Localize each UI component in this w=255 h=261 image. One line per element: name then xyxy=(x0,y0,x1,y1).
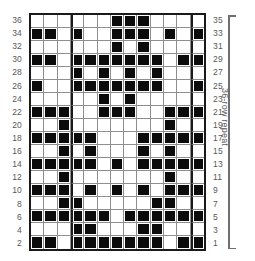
stitch-cell-empty xyxy=(111,132,124,145)
stitch-cell-filled xyxy=(71,28,84,41)
stitch-cell-empty xyxy=(111,145,124,158)
left-row-number: 12 xyxy=(12,171,26,184)
stitch-cell-filled xyxy=(151,223,164,236)
right-row-number: 7 xyxy=(208,198,218,211)
stitch-cell-empty xyxy=(31,145,44,158)
stitch-cell-filled xyxy=(124,93,137,106)
stitch-cell-filled xyxy=(98,80,111,93)
stitch-cell-filled xyxy=(58,106,71,119)
stitch-cell-filled xyxy=(71,223,84,236)
stitch-cell-empty xyxy=(71,171,84,184)
stitch-cell-filled xyxy=(44,106,57,119)
stitch-cell-filled xyxy=(124,210,137,223)
stitch-cell-empty xyxy=(111,93,124,106)
stitch-cell-filled xyxy=(137,41,150,54)
stitch-cell-empty xyxy=(58,236,71,249)
stitch-cell-filled xyxy=(98,54,111,67)
stitch-cell-filled xyxy=(111,28,124,41)
stitch-cell-filled xyxy=(111,15,124,28)
left-row-number: 18 xyxy=(12,132,26,145)
stitch-cell-filled xyxy=(151,236,164,249)
stitch-cell-empty xyxy=(191,15,204,28)
stitch-cell-empty xyxy=(124,145,137,158)
stitch-cell-empty xyxy=(177,41,190,54)
stitch-cell-empty xyxy=(124,41,137,54)
stitch-cell-filled xyxy=(151,158,164,171)
stitch-cell-filled xyxy=(191,158,204,171)
stitch-cell-filled xyxy=(111,41,124,54)
stitch-cell-empty xyxy=(124,158,137,171)
stitch-cell-filled xyxy=(111,54,124,67)
stitch-cell-filled xyxy=(58,210,71,223)
stitch-cell-filled xyxy=(31,236,44,249)
stitch-cell-empty xyxy=(124,223,137,236)
stitch-cell-filled xyxy=(164,184,177,197)
stitch-cell-filled xyxy=(31,54,44,67)
stitch-cell-empty xyxy=(98,223,111,236)
stitch-cell-empty xyxy=(111,197,124,210)
stitch-cell-empty xyxy=(84,15,97,28)
stitch-cell-empty xyxy=(177,119,190,132)
stitch-cell-empty xyxy=(164,80,177,93)
stitch-cell-filled xyxy=(164,119,177,132)
stitch-cell-filled xyxy=(191,54,204,67)
stitch-cell-empty xyxy=(71,15,84,28)
stitch-cell-empty xyxy=(164,223,177,236)
stitch-grid xyxy=(31,15,204,249)
stitch-cell-empty xyxy=(84,67,97,80)
stitch-cell-empty xyxy=(31,119,44,132)
stitch-cell-empty xyxy=(98,119,111,132)
stitch-cell-filled xyxy=(151,80,164,93)
stitch-cell-empty xyxy=(164,93,177,106)
stitch-cell-empty xyxy=(71,184,84,197)
stitch-cell-empty xyxy=(98,197,111,210)
stitch-cell-filled xyxy=(164,197,177,210)
stitch-cell-empty xyxy=(164,54,177,67)
left-row-number-column: 36343230282624222018161412108642 xyxy=(0,14,26,250)
left-row-number: 6 xyxy=(17,211,26,224)
stitch-cell-empty xyxy=(44,15,57,28)
stitch-cell-empty xyxy=(58,67,71,80)
stitch-cell-filled xyxy=(71,67,84,80)
stitch-cell-filled xyxy=(124,80,137,93)
stitch-cell-filled xyxy=(177,236,190,249)
stitch-cell-filled xyxy=(44,54,57,67)
stitch-cell-empty xyxy=(31,171,44,184)
left-row-number: 8 xyxy=(17,198,26,211)
stitch-cell-empty xyxy=(84,197,97,210)
stitch-cell-empty xyxy=(31,41,44,54)
stitch-cell-empty xyxy=(124,171,137,184)
stitch-cell-filled xyxy=(44,158,57,171)
stitch-cell-filled xyxy=(137,236,150,249)
stitch-cell-empty xyxy=(177,171,190,184)
stitch-cell-filled xyxy=(177,132,190,145)
stitch-cell-empty xyxy=(31,197,44,210)
repeat-bracket-tick-bottom xyxy=(228,248,236,250)
stitch-cell-filled xyxy=(31,106,44,119)
stitch-cell-filled xyxy=(137,210,150,223)
stitch-cell-empty xyxy=(84,106,97,119)
stitch-cell-filled xyxy=(58,132,71,145)
stitch-cell-empty xyxy=(111,210,124,223)
stitch-cell-filled xyxy=(137,15,150,28)
stitch-cell-empty xyxy=(151,184,164,197)
stitch-cell-filled xyxy=(151,197,164,210)
stitch-cell-empty xyxy=(164,236,177,249)
stitch-cell-empty xyxy=(71,41,84,54)
stitch-cell-empty xyxy=(44,67,57,80)
stitch-cell-empty xyxy=(151,15,164,28)
stitch-cell-empty xyxy=(124,197,137,210)
stitch-cell-filled xyxy=(124,236,137,249)
stitch-cell-filled xyxy=(111,158,124,171)
stitch-cell-filled xyxy=(137,145,150,158)
stitch-cell-filled xyxy=(151,67,164,80)
stitch-cell-filled xyxy=(124,67,137,80)
stitch-cell-empty xyxy=(58,54,71,67)
stitch-cell-filled xyxy=(84,54,97,67)
stitch-cell-filled xyxy=(44,184,57,197)
stitch-cell-filled xyxy=(124,15,137,28)
left-row-number: 26 xyxy=(12,80,26,93)
stitch-cell-filled xyxy=(31,28,44,41)
stitch-cell-empty xyxy=(58,93,71,106)
stitch-cell-filled xyxy=(164,210,177,223)
